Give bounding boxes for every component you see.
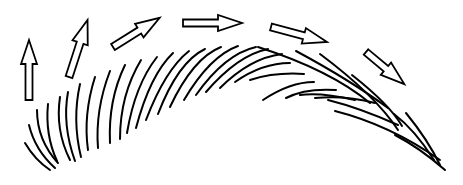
streak-diagram <box>0 0 463 185</box>
streak-line <box>235 63 290 82</box>
arrow-4-right-icon <box>183 15 242 31</box>
streak-lines <box>25 46 398 170</box>
streak-line <box>98 71 111 148</box>
streak-line <box>76 84 81 157</box>
streak-line <box>59 97 70 160</box>
arrow-1-up-icon <box>21 40 37 100</box>
streak-line <box>127 57 157 133</box>
arrow-2-up-right-icon <box>61 17 95 79</box>
diagram-canvas <box>0 0 463 185</box>
arrow-5-down-right-icon <box>269 19 329 49</box>
arrow-6-down-right-icon <box>361 46 410 90</box>
leading-edge-streak-lines <box>258 47 445 170</box>
streak-line <box>250 74 304 80</box>
streak-line <box>66 92 75 161</box>
streak-line <box>184 46 238 100</box>
arrow-3-up-right-icon <box>109 11 164 54</box>
streak-line <box>87 77 95 150</box>
streak-line <box>120 60 141 139</box>
